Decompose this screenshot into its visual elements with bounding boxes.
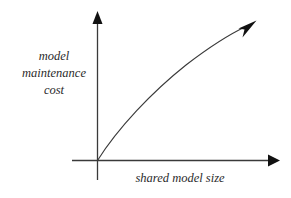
y-axis-arrow-icon [93, 11, 103, 24]
figure-container: model maintenance cost shared model size [0, 0, 291, 198]
x-axis-arrow-icon [268, 155, 280, 167]
x-axis-label: shared model size [110, 171, 250, 186]
y-axis-label-line-2: maintenance [4, 65, 104, 82]
y-axis-label-line-1: model [4, 48, 104, 65]
y-axis-label-line-3: cost [4, 82, 104, 99]
growth-curve [98, 26, 248, 161]
y-axis-label: model maintenance cost [4, 48, 104, 99]
axes-and-curve-graphic [0, 0, 291, 198]
